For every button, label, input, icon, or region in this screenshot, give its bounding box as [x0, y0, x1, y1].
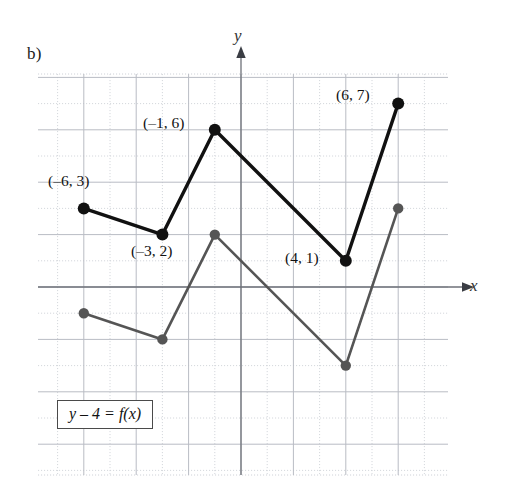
data-point — [341, 360, 351, 370]
y-axis-label: y — [234, 26, 242, 46]
point-label: (–6, 3) — [48, 172, 89, 190]
data-point — [78, 202, 90, 214]
data-point — [79, 308, 89, 318]
point-label: (6, 7) — [336, 86, 370, 104]
point-label: (4, 1) — [285, 249, 319, 267]
point-label: (–1, 6) — [143, 114, 184, 132]
part-label: b) — [27, 44, 42, 64]
data-point — [210, 229, 220, 239]
x-axis-label: x — [470, 276, 478, 296]
graph-figure: b) y x (–6, 3)(–1, 6)(–3, 2)(4, 1)(6, 7)… — [0, 0, 511, 500]
data-point — [157, 334, 167, 344]
point-label: (–3, 2) — [131, 242, 172, 260]
equation-box: y – 4 = f(x) — [57, 400, 153, 429]
data-point — [340, 255, 352, 267]
data-point — [392, 98, 404, 110]
data-point — [393, 203, 403, 213]
data-point — [209, 124, 221, 136]
data-point — [156, 229, 168, 241]
